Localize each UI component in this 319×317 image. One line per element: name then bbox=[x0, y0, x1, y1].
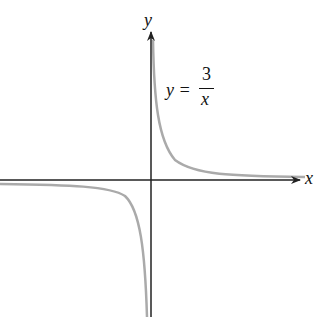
plot-area bbox=[0, 0, 319, 317]
curve-q3 bbox=[0, 184, 147, 317]
equation-denominator: x bbox=[201, 89, 209, 110]
equation-numerator: 3 bbox=[202, 64, 211, 85]
curve-q1 bbox=[153, 40, 305, 177]
equation-lhs: y = bbox=[166, 80, 191, 101]
y-axis-label: y bbox=[144, 10, 152, 31]
hyperbola-graph: y x y = 3 x bbox=[0, 0, 319, 317]
x-axis-label: x bbox=[305, 168, 313, 189]
